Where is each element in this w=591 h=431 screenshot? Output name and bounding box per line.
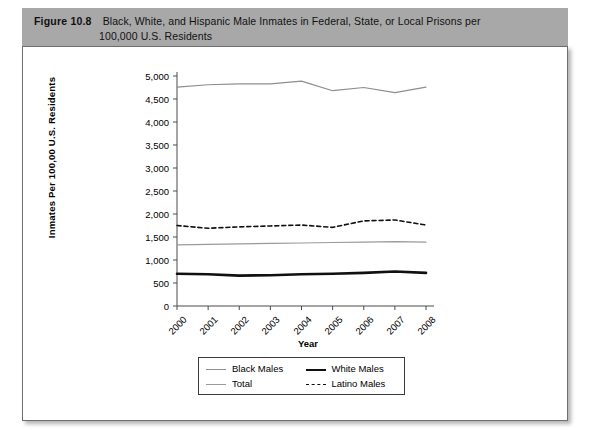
legend-label-latino-males: Latino Males — [332, 378, 386, 389]
series-line-latino-males — [177, 220, 426, 228]
legend-swatch-white-males-icon — [306, 365, 326, 373]
y-tick-label-10: 5,000 — [125, 71, 169, 82]
x-axis-title: Year — [178, 338, 438, 349]
chart-area: Inmates Per 100,00 U.S. Residents Year 0… — [23, 47, 569, 422]
figure-root: Figure 10.8Black, White, and Hispanic Ma… — [0, 0, 591, 431]
legend-item-black-males: Black Males — [206, 363, 298, 374]
legend-label-total: Total — [232, 378, 252, 389]
y-tick-label-2: 1,000 — [125, 255, 169, 266]
legend-swatch-latino-males-icon — [306, 380, 326, 388]
legend-label-black-males: Black Males — [232, 363, 283, 374]
chart-legend: Black Males White Males Total Latino Mal… — [198, 357, 405, 395]
legend-item-white-males: White Males — [306, 363, 398, 374]
y-tick-label-3: 1,500 — [125, 232, 169, 243]
y-tick-label-1: 500 — [125, 278, 169, 289]
y-tick-label-9: 4,500 — [125, 94, 169, 105]
figure-title-line-1: Figure 10.8Black, White, and Hispanic Ma… — [34, 14, 558, 29]
legend-swatch-black-males-icon — [206, 365, 226, 373]
series-line-total — [177, 242, 426, 245]
figure-title-text-1: Black, White, and Hispanic Male Inmates … — [103, 15, 481, 27]
y-axis-title: Inmates Per 100,00 U.S. Residents — [46, 58, 57, 258]
series-line-black-males — [177, 81, 426, 93]
y-tick-label-7: 3,500 — [125, 140, 169, 151]
legend-item-latino-males: Latino Males — [306, 378, 398, 389]
figure-title-line-2: 100,000 U.S. Residents — [34, 29, 558, 44]
y-tick-label-5: 2,500 — [125, 186, 169, 197]
y-tick-label-4: 2,000 — [125, 209, 169, 220]
series-line-white-males — [177, 272, 426, 276]
figure-header-bar: Figure 10.8Black, White, and Hispanic Ma… — [22, 8, 568, 46]
legend-swatch-total-icon — [206, 380, 226, 388]
figure-card: Inmates Per 100,00 U.S. Residents Year 0… — [22, 46, 568, 421]
y-tick-label-8: 4,000 — [125, 117, 169, 128]
figure-number: Figure 10.8 — [34, 15, 92, 27]
y-tick-label-0: 0 — [125, 301, 169, 312]
legend-item-total: Total — [206, 378, 298, 389]
series-lines — [177, 81, 426, 276]
legend-label-white-males: White Males — [332, 363, 384, 374]
y-tick-label-6: 3,000 — [125, 163, 169, 174]
